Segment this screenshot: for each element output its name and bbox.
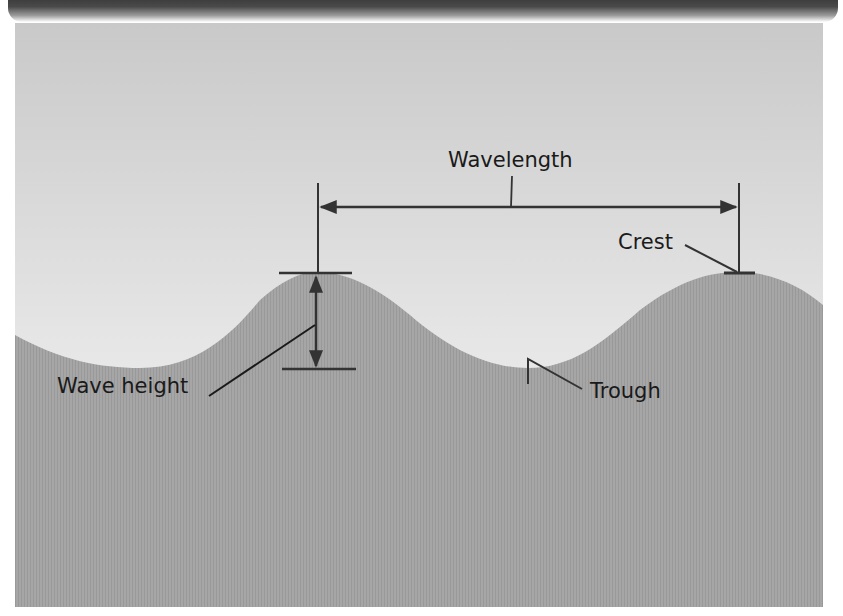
wavelength-label: Wavelength bbox=[448, 148, 573, 172]
header-bar bbox=[8, 0, 838, 22]
trough-label: Trough bbox=[589, 379, 661, 403]
wave-diagram-canvas: Wavelength Crest Wave height Trough bbox=[15, 23, 823, 607]
wave-height-label: Wave height bbox=[57, 374, 188, 398]
wave-diagram: Wavelength Crest Wave height Trough bbox=[15, 23, 823, 607]
crest-label: Crest bbox=[618, 230, 673, 254]
